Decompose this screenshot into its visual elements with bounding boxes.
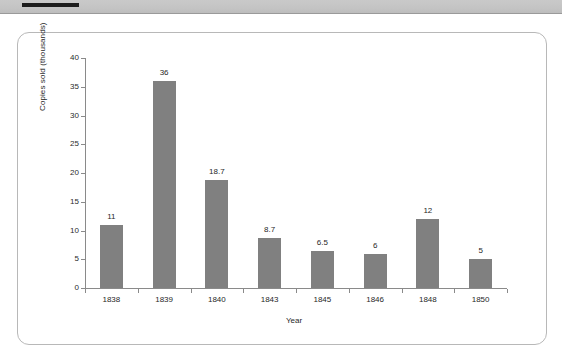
bar-value-label-1840: 18.7 xyxy=(209,167,225,177)
y-tick-label: 20 xyxy=(70,167,79,178)
x-category-label-1845: 1845 xyxy=(299,294,345,305)
top-horizontal-rule xyxy=(22,3,79,7)
y-tick-label: 0 xyxy=(75,282,79,293)
x-tick-mark xyxy=(191,289,192,293)
y-tick-label: 40 xyxy=(70,52,79,63)
x-tick-mark xyxy=(402,289,403,293)
y-tick-label: 30 xyxy=(70,110,79,121)
x-tick-mark xyxy=(138,289,139,293)
bar-1848[interactable]: 12 xyxy=(416,219,439,288)
bar-value-label-1838: 11 xyxy=(107,212,115,222)
y-axis-line xyxy=(85,58,86,289)
y-axis-title: Copies sold (thousands) xyxy=(38,22,47,111)
bar-value-label-1850: 5 xyxy=(478,246,482,256)
x-tick-mark xyxy=(507,289,508,293)
chart-panel: Copies sold (thousands) 0510152025303540… xyxy=(17,32,547,345)
x-category-label-1840: 1840 xyxy=(194,294,240,305)
x-tick-mark xyxy=(243,289,244,293)
bar-1850[interactable]: 5 xyxy=(469,259,492,288)
bar-group-1846[interactable]: 6 xyxy=(364,58,387,288)
y-tick-mark xyxy=(81,144,85,145)
bar-value-label-1843: 8.7 xyxy=(264,225,275,235)
x-tick-mark xyxy=(85,289,86,293)
x-category-label-1838: 1838 xyxy=(88,294,134,305)
y-tick-mark xyxy=(81,87,85,88)
bar-1845[interactable]: 6.5 xyxy=(311,251,334,288)
y-tick-mark xyxy=(81,58,85,59)
x-category-label-1839: 1839 xyxy=(141,294,187,305)
y-tick-label: 25 xyxy=(70,138,79,149)
bar-group-1843[interactable]: 8.7 xyxy=(258,58,281,288)
x-tick-mark xyxy=(349,289,350,293)
bar-value-label-1848: 12 xyxy=(423,206,432,216)
x-category-label-1848: 1848 xyxy=(405,294,451,305)
bar-group-1848[interactable]: 12 xyxy=(416,58,439,288)
x-axis-title-text: Year xyxy=(286,316,302,325)
y-tick-mark xyxy=(81,259,85,260)
bar-chart: Copies sold (thousands) 0510152025303540… xyxy=(18,33,548,346)
bar-value-label-1839: 36 xyxy=(160,68,169,78)
y-tick-label: 15 xyxy=(70,196,79,207)
y-tick-label: 35 xyxy=(70,81,79,92)
x-category-label-1843: 1843 xyxy=(247,294,293,305)
plot-area: 051015202530354011183836183918.718408.71… xyxy=(85,58,507,288)
top-gray-band xyxy=(0,0,562,14)
bar-value-label-1846: 6 xyxy=(373,241,377,251)
x-category-label-1846: 1846 xyxy=(352,294,398,305)
bar-1846[interactable]: 6 xyxy=(364,254,387,289)
y-tick-mark xyxy=(81,202,85,203)
bar-group-1850[interactable]: 5 xyxy=(469,58,492,288)
x-axis-title: Year xyxy=(18,316,548,325)
bar-group-1840[interactable]: 18.7 xyxy=(205,58,228,288)
bar-group-1845[interactable]: 6.5 xyxy=(311,58,334,288)
bar-group-1838[interactable]: 11 xyxy=(100,58,123,288)
y-tick-mark xyxy=(81,173,85,174)
bar-1843[interactable]: 8.7 xyxy=(258,238,281,288)
x-tick-mark xyxy=(454,289,455,293)
bar-group-1839[interactable]: 36 xyxy=(153,58,176,288)
x-category-label-1850: 1850 xyxy=(458,294,504,305)
y-tick-mark xyxy=(81,231,85,232)
bar-1839[interactable]: 36 xyxy=(153,81,176,288)
page-body: Copies sold (thousands) 0510152025303540… xyxy=(0,15,562,343)
bar-1840[interactable]: 18.7 xyxy=(205,180,228,288)
y-tick-label: 10 xyxy=(70,225,79,236)
bar-1838[interactable]: 11 xyxy=(100,225,123,288)
y-tick-mark xyxy=(81,116,85,117)
x-tick-mark xyxy=(296,289,297,293)
y-tick-label: 5 xyxy=(75,253,79,264)
bar-value-label-1845: 6.5 xyxy=(317,238,328,248)
